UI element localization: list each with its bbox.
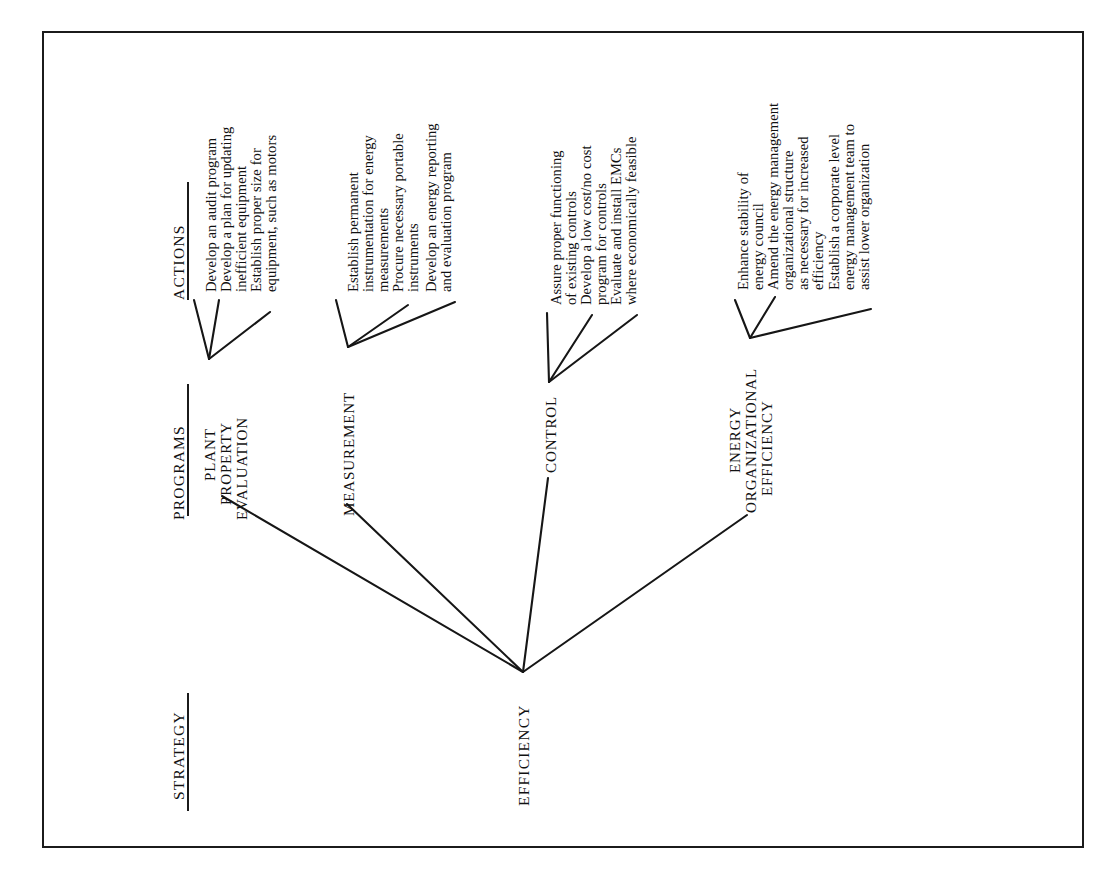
node-plant-property-evaluation-line-3: EVALUATION: [234, 417, 251, 520]
action-text-line: efficiency: [810, 231, 827, 290]
column-header-programs: PROGRAMS: [170, 425, 188, 520]
action-text-line: equipment, such as motors: [263, 135, 280, 292]
column-rule-strategy: [187, 693, 189, 811]
action-text-line: assist lower organization: [856, 144, 873, 290]
node-energy-organizational-efficiency-line-2: ORGANIZATIONAL: [743, 368, 760, 513]
column-rule-actions: [187, 182, 189, 300]
node-plant-property-evaluation-line-2: PROPERTY: [218, 422, 235, 505]
action-text-line: where economically feasible: [623, 136, 640, 305]
node-control-line-1: CONTROL: [543, 396, 560, 473]
column-rule-programs: [187, 384, 189, 516]
node-energy-organizational-efficiency-line-1: ENERGY: [727, 407, 744, 473]
column-header-actions: ACTIONS: [170, 224, 188, 300]
node-energy-organizational-efficiency-line-3: EFFICIENCY: [759, 400, 776, 496]
node-plant-property-evaluation-line-1: PLANT: [202, 428, 219, 481]
action-text-line: instruments: [405, 223, 422, 292]
column-header-strategy: STRATEGY: [170, 711, 188, 800]
diagram-canvas: STRATEGY PROGRAMS ACTIONS EFFICIENCY PLA…: [0, 0, 1099, 891]
node-measurement-line-1: MEASUREMENT: [341, 392, 358, 516]
node-efficiency-root: EFFICIENCY: [515, 704, 533, 806]
action-text-line: and evaluation program: [438, 152, 455, 292]
